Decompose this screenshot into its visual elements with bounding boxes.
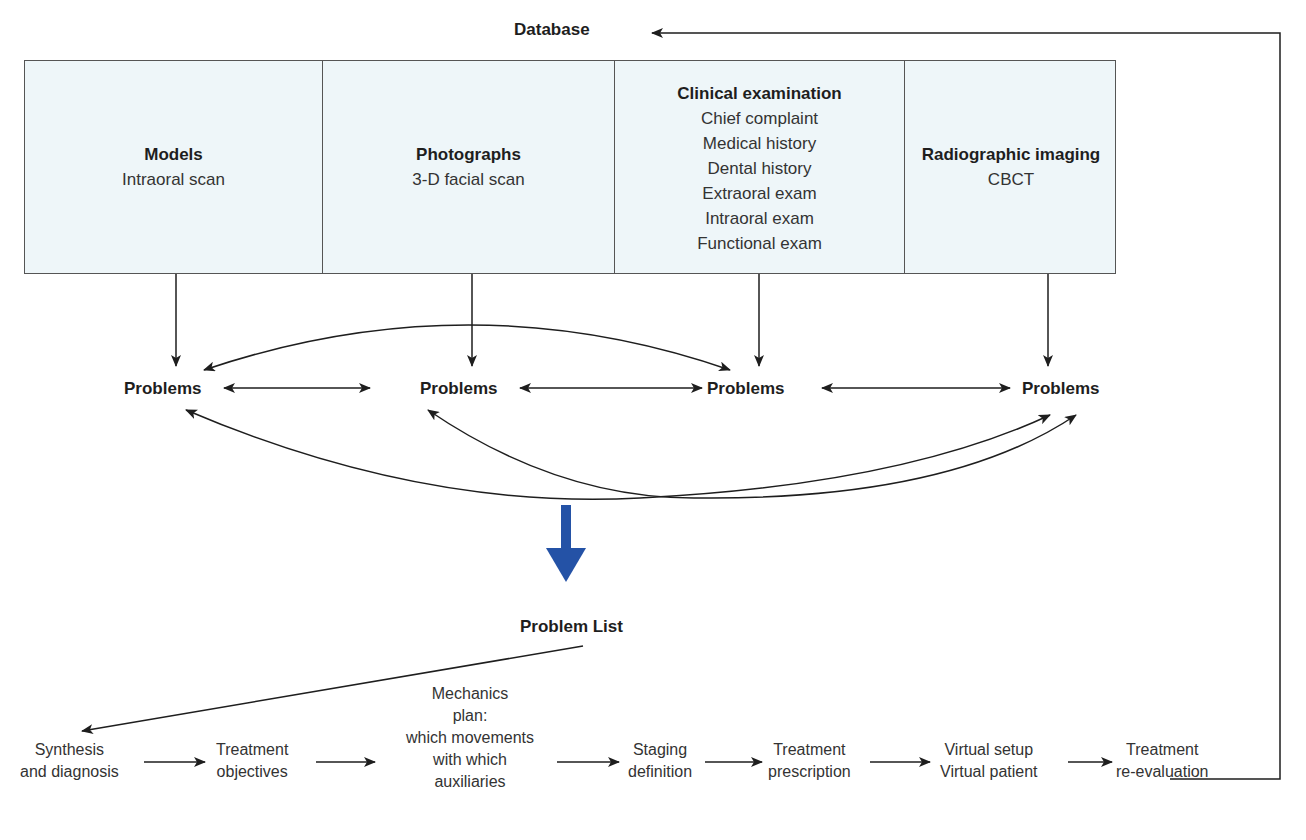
source-item: 3-D facial scan	[412, 167, 524, 192]
source-title: Radiographic imaging	[922, 142, 1101, 167]
source-item: Intraoral exam	[705, 206, 814, 231]
step-prescription: Treatmentprescription	[768, 739, 851, 783]
source-title: Clinical examination	[677, 81, 841, 106]
problem-list-label: Problem List	[520, 617, 623, 637]
source-item: Extraoral exam	[702, 181, 816, 206]
source-title: Photographs	[416, 142, 521, 167]
source-radiographic-imaging: Radiographic imaging CBCT	[905, 61, 1117, 273]
step-objectives: Treatmentobjectives	[216, 739, 288, 783]
database-label: Database	[514, 20, 590, 40]
source-models: Models Intraoral scan	[25, 61, 323, 273]
source-item: Functional exam	[697, 231, 822, 256]
step-virtual-setup: Virtual setupVirtual patient	[940, 739, 1038, 783]
source-item: Chief complaint	[701, 106, 818, 131]
source-item: CBCT	[988, 167, 1034, 192]
source-item: Intraoral scan	[122, 167, 225, 192]
down-arrow-icon	[546, 505, 586, 582]
step-synthesis: Synthesisand diagnosis	[20, 739, 119, 783]
problems-photographs: Problems	[420, 379, 497, 399]
step-re-evaluation: Treatmentre-evaluation	[1116, 739, 1209, 783]
step-mechanics-plan: Mechanicsplan: which movementswith which…	[390, 683, 550, 793]
problems-clinical: Problems	[707, 379, 784, 399]
step-staging: Stagingdefinition	[628, 739, 692, 783]
problems-models: Problems	[124, 379, 201, 399]
source-clinical-examination: Clinical examination Chief complaint Med…	[615, 61, 905, 273]
source-title: Models	[144, 142, 203, 167]
source-item: Dental history	[708, 156, 812, 181]
data-sources-box: Models Intraoral scan Photographs 3-D fa…	[24, 60, 1116, 274]
source-photographs: Photographs 3-D facial scan	[323, 61, 615, 273]
problems-radiographic: Problems	[1022, 379, 1099, 399]
source-item: Medical history	[703, 131, 816, 156]
